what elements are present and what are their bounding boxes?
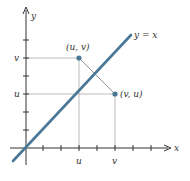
line-y-equals-x — [13, 35, 131, 161]
reflection-diagram: y x v u u v (u, v) (v, u) y = x — [0, 0, 190, 181]
y-tick-label-u: u — [14, 89, 20, 99]
x-axis-label: x — [174, 143, 179, 153]
x-tick-label-v: v — [112, 156, 117, 166]
point-label-v-u: (v, u) — [120, 89, 143, 99]
point-label-u-v: (u, v) — [66, 42, 90, 52]
line-label: y = x — [133, 30, 157, 40]
connector-segment — [79, 58, 115, 94]
point-v-u — [112, 91, 117, 96]
y-axis-label: y — [30, 11, 37, 21]
x-tick-label-u: u — [76, 156, 82, 166]
y-tick-label-v: v — [14, 53, 19, 63]
point-u-v — [76, 55, 81, 60]
